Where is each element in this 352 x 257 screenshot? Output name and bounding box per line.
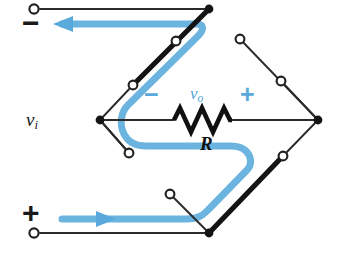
current-arrow-top-head <box>53 16 73 32</box>
switch-top-left-blade[interactable] <box>133 9 209 85</box>
output-negative-sign: − <box>144 82 159 107</box>
current-path-trace <box>62 24 251 219</box>
output-positive-sign: + <box>240 82 255 107</box>
output-voltage-label: vo <box>190 85 203 104</box>
contact-top-right-blade-tip[interactable] <box>277 77 286 86</box>
circuit-schematic-canvas <box>0 0 352 257</box>
node-right-junction <box>314 116 323 125</box>
current-path-group <box>53 16 251 227</box>
contact-bottom-left-open[interactable] <box>125 149 134 158</box>
input-negative-sign: − <box>22 8 40 38</box>
resistor-zigzag <box>174 108 232 132</box>
output-voltage-symbol: v <box>190 84 198 103</box>
switch-top-right-blade[interactable] <box>281 81 318 120</box>
open-contact-group[interactable] <box>29 4 287 237</box>
contact-top-right-open[interactable] <box>236 35 245 44</box>
circuit-diagram-figure: − + vi − vo + R <box>0 0 352 257</box>
input-source-label: vi <box>26 110 38 132</box>
contact-top-left-open[interactable] <box>129 81 138 90</box>
resistor-symbol <box>174 108 232 132</box>
input-source-subscript: i <box>34 117 38 132</box>
input-positive-terminal[interactable] <box>29 228 38 237</box>
output-voltage-subscript: o <box>198 92 204 105</box>
node-bottom-junction <box>205 229 214 238</box>
contact-bottom-right-closed[interactable] <box>279 152 288 161</box>
current-arrow-bottom-head <box>96 211 116 227</box>
node-top-junction <box>205 5 214 14</box>
input-positive-sign: + <box>22 198 40 228</box>
contact-top-left-closed[interactable] <box>172 37 181 46</box>
wire-right-to-bottomright-contact <box>283 120 318 156</box>
resistor-label: R <box>200 134 213 153</box>
node-left-junction <box>96 116 105 125</box>
contact-bottom-right-open[interactable] <box>166 190 175 199</box>
